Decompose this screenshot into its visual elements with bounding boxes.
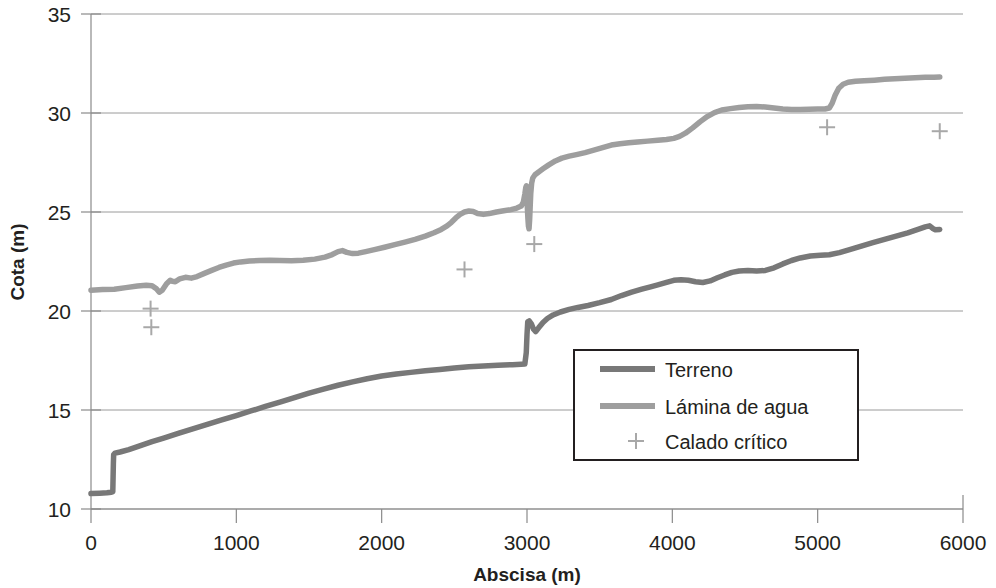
x-tick-label-6000: 6000 xyxy=(940,531,987,554)
y-tick-label-35: 35 xyxy=(48,3,71,26)
legend-label-calado-critico: Calado crítico xyxy=(665,431,787,453)
y-tick-label-20: 20 xyxy=(48,300,71,323)
y-tick-label-15: 15 xyxy=(48,399,71,422)
legend-label-terreno: Terreno xyxy=(665,359,733,381)
x-tick-label-3000: 3000 xyxy=(504,531,551,554)
x-tick-label-1000: 1000 xyxy=(213,531,260,554)
y-tick-label-30: 30 xyxy=(48,102,71,125)
y-tick-label-25: 25 xyxy=(48,201,71,224)
y-axis-tick-labels: 101520253035 xyxy=(48,3,71,521)
x-axis-tick-labels: 0100020003000400050006000 xyxy=(85,531,986,554)
chart-container: 0100020003000400050006000 101520253035 A… xyxy=(0,0,996,588)
calado-critico-marker-2 xyxy=(457,261,473,277)
series-calado-critico xyxy=(143,119,948,335)
calado-critico-marker-0 xyxy=(143,301,159,317)
cota-abscisa-line-chart: 0100020003000400050006000 101520253035 A… xyxy=(0,0,996,588)
x-tick-label-4000: 4000 xyxy=(649,531,696,554)
x-tick-label-0: 0 xyxy=(85,531,97,554)
legend-label-lamina-de-agua: Lámina de agua xyxy=(665,396,809,418)
series-lamina-de-agua xyxy=(91,77,940,292)
calado-critico-marker-1 xyxy=(143,319,159,335)
calado-critico-marker-4 xyxy=(819,119,835,135)
x-tick-label-2000: 2000 xyxy=(358,531,405,554)
calado-critico-marker-5 xyxy=(932,123,948,139)
calado-critico-marker-3 xyxy=(526,236,542,252)
y-axis-title: Cota (m) xyxy=(7,223,28,300)
x-axis-title: Abscisa (m) xyxy=(473,564,581,585)
x-tick-label-5000: 5000 xyxy=(794,531,841,554)
lamina-de-agua-line xyxy=(91,77,940,292)
y-tick-label-10: 10 xyxy=(48,498,71,521)
chart-legend: Terreno Lámina de agua Calado crítico xyxy=(574,350,858,460)
